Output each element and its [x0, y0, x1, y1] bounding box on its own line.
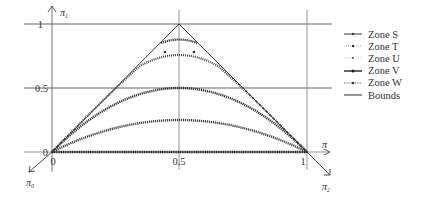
pi2-axis	[307, 152, 330, 175]
pi0-label: π0	[26, 177, 34, 189]
legend-swatch-dotted-marker-icon	[344, 53, 362, 63]
legend-label: Zone T	[368, 41, 398, 52]
series-zone-t-point	[193, 51, 196, 54]
y-axis-label: π1	[60, 7, 68, 19]
pi2-label: π2	[322, 181, 330, 193]
legend-item-zone-u: Zone U	[344, 52, 402, 64]
tick-x-1: 1	[300, 156, 305, 167]
tick-y-0: 0	[43, 147, 48, 158]
legend-item-bounds: Bounds	[344, 89, 402, 101]
series-zone-u	[52, 55, 307, 152]
legend-label: Zone U	[368, 53, 400, 64]
legend-item-zone-w: Zone W	[344, 77, 402, 89]
tick-x-0: 0	[50, 156, 55, 167]
series-zone-w	[52, 120, 307, 152]
pi0-axis	[29, 152, 52, 172]
legend-item-zone-v: Zone V	[344, 65, 402, 77]
tick-x-05: 0.5	[172, 156, 185, 167]
legend-swatch-dotted-marker-icon	[344, 41, 362, 51]
tick-y-05: 0.5	[35, 83, 48, 94]
legend-label: Zone V	[368, 65, 400, 76]
legend-swatch-thick-marker-icon	[344, 66, 362, 76]
legend-swatch-line-marker-icon	[344, 29, 362, 39]
legend-item-zone-t: Zone T	[344, 40, 402, 52]
legend-item-zone-s: Zone S	[344, 28, 402, 40]
legend: Zone S Zone T Zone U Zone V Zone W Bound…	[344, 28, 402, 101]
legend-swatch-solid-line-icon	[344, 90, 362, 100]
legend-label: Bounds	[368, 90, 400, 101]
legend-label: Zone S	[368, 29, 398, 40]
legend-label: Zone W	[368, 77, 402, 88]
legend-swatch-dotted-marker-icon	[344, 78, 362, 88]
x-axis-label: π	[322, 139, 328, 150]
series-zone-t-point	[164, 51, 167, 54]
tick-y-1: 1	[38, 19, 43, 30]
